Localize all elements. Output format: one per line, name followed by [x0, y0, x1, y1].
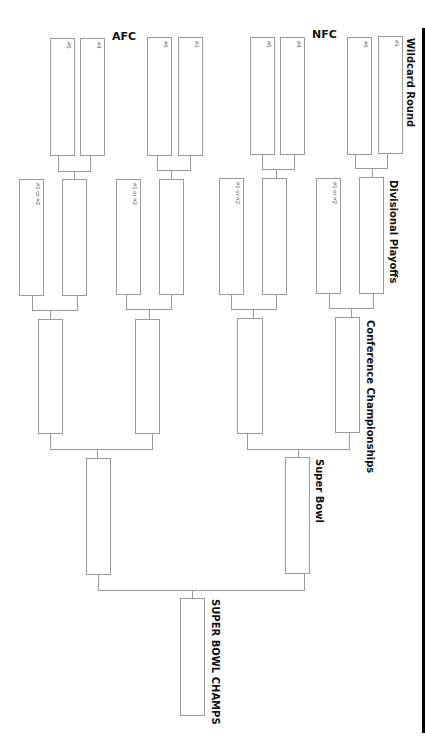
connector	[231, 309, 277, 310]
connector	[50, 310, 51, 319]
connector	[98, 590, 305, 591]
divisional-slot-afc-top-seed-2[interactable]: #1 or #2	[116, 179, 141, 295]
connector	[276, 169, 277, 178]
nfc-label: NFC	[312, 28, 337, 41]
connector	[32, 295, 33, 311]
connector	[329, 293, 330, 309]
connector	[294, 154, 295, 170]
wildcard-slot-afc-5[interactable]: #5	[50, 38, 75, 156]
round-label-superbowl: Super Bowl	[314, 459, 325, 523]
divisional-slot-nfc-2[interactable]	[359, 177, 384, 294]
connector	[171, 170, 172, 179]
connector	[372, 168, 373, 177]
connector	[90, 155, 91, 172]
seed-label: #5	[266, 41, 272, 48]
wildcard-slot-afc-3[interactable]: #3	[178, 37, 203, 156]
superbowl-slot-nfc[interactable]	[285, 457, 310, 574]
seed-label: #6	[363, 41, 369, 48]
round-label-conference: Conference Championships	[365, 320, 376, 473]
connector	[58, 155, 59, 172]
connector	[50, 449, 153, 450]
divisional-slot-nfc-top-seed[interactable]: #1 or #2	[219, 178, 244, 295]
connector	[304, 574, 305, 591]
seed-label: #3	[394, 40, 400, 47]
seed-label: #1 or #2	[132, 183, 138, 205]
connector	[247, 433, 248, 450]
champion-slot[interactable]	[180, 598, 205, 716]
seed-label: #3	[194, 41, 200, 48]
afc-label: AFC	[112, 30, 136, 43]
seed-label: #1 or #2	[332, 182, 338, 204]
conference-slot-nfc-2[interactable]	[335, 317, 360, 433]
connector	[171, 294, 172, 310]
round-label-divisional: Divisional Playoffs	[388, 180, 399, 283]
connector	[126, 294, 127, 310]
connector	[262, 169, 295, 170]
divisional-slot-afc-1[interactable]	[62, 179, 87, 296]
connector	[149, 309, 150, 319]
connector	[97, 449, 98, 458]
connector	[192, 590, 193, 598]
connector	[152, 433, 153, 450]
connector	[276, 294, 277, 310]
connector	[190, 155, 191, 171]
divisional-slot-afc-top-seed[interactable]: #1 or #2	[19, 179, 44, 296]
wildcard-slot-afc-4[interactable]: #4	[80, 38, 105, 156]
superbowl-slot-afc[interactable]	[86, 458, 111, 575]
seed-label: #1 or #2	[235, 182, 241, 204]
connector	[262, 154, 263, 170]
round-label-champs: SUPER BOWL CHAMPS	[210, 599, 221, 725]
divisional-slot-nfc-top-seed-2[interactable]: #1 or #2	[316, 178, 341, 294]
conference-slot-afc-2[interactable]	[135, 319, 160, 434]
connector	[231, 294, 232, 310]
round-label-wildcard: Wildcard Round	[405, 38, 416, 127]
connector	[157, 155, 158, 171]
connector	[387, 154, 388, 169]
seed-label: #4	[96, 42, 102, 49]
wildcard-slot-nfc-3[interactable]: #3	[378, 36, 403, 154]
wildcard-slot-nfc-4[interactable]: #4	[280, 37, 305, 155]
seed-label: #5	[66, 42, 72, 49]
divisional-slot-afc-2[interactable]	[159, 179, 184, 295]
connector	[50, 433, 51, 450]
connector	[32, 310, 78, 311]
wildcard-slot-nfc-5[interactable]: #5	[250, 37, 275, 155]
conference-slot-afc-1[interactable]	[38, 319, 63, 434]
connector	[98, 575, 99, 591]
divisional-slot-nfc-1[interactable]	[262, 178, 287, 295]
wildcard-slot-afc-6[interactable]: #6	[147, 37, 172, 156]
seed-label: #6	[163, 41, 169, 48]
seed-label: #1 or #2	[35, 183, 41, 205]
wildcard-slot-nfc-6[interactable]: #6	[347, 37, 372, 155]
connector	[157, 170, 191, 171]
conference-slot-nfc-1[interactable]	[237, 318, 263, 434]
connector	[355, 154, 356, 169]
connector	[349, 432, 350, 450]
connector	[77, 295, 78, 311]
connector	[373, 293, 374, 309]
seed-label: #4	[296, 41, 302, 48]
